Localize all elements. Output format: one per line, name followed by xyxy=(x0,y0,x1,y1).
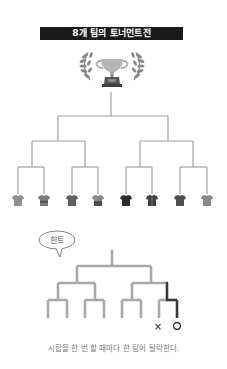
loser-mark: × xyxy=(154,321,162,332)
hint-bracket: 힌트 × xyxy=(0,0,227,369)
winner-path xyxy=(166,283,177,318)
winner-mark xyxy=(174,323,181,330)
caption: 시합을 한 번 할 때마다 한 팀이 탈락한다. xyxy=(0,342,227,353)
hint-label: 힌트 xyxy=(50,235,64,245)
